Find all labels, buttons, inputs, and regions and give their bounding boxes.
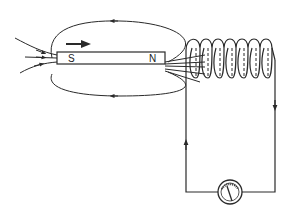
south-pole-label: S bbox=[68, 53, 75, 64]
coil bbox=[186, 39, 275, 84]
circuit-wires bbox=[186, 60, 275, 192]
induction-diagram: S N bbox=[0, 0, 293, 216]
bar-magnet: S N bbox=[57, 52, 165, 64]
galvanometer-icon bbox=[218, 180, 242, 204]
north-pole-label: N bbox=[149, 53, 156, 64]
